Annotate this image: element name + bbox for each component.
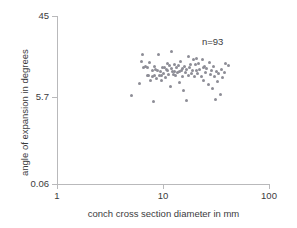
data-point: [219, 93, 222, 96]
data-point: [205, 67, 208, 70]
data-point: [179, 60, 182, 63]
data-point: [214, 98, 217, 101]
x-axis-tick-label-1: 1: [37, 191, 77, 201]
data-point: [149, 79, 152, 82]
data-point: [155, 77, 158, 80]
data-point: [193, 75, 196, 78]
data-point: [138, 82, 141, 85]
data-point: [227, 64, 230, 67]
y-axis-tick-label-0-06: 0.06: [3, 179, 49, 189]
data-point: [202, 79, 205, 82]
data-point: [204, 71, 207, 74]
data-point: [192, 58, 195, 61]
data-point: [182, 89, 185, 92]
data-point: [178, 81, 181, 84]
data-point: [213, 75, 216, 78]
data-point: [146, 66, 149, 69]
data-point: [167, 73, 170, 76]
data-point: [169, 85, 172, 88]
scatter-plot-figure: 45 5.7 0.06 1 10 100 conch cross section…: [0, 0, 297, 228]
data-point: [209, 73, 212, 76]
data-point: [195, 57, 198, 60]
y-axis-title: angle of expansion in degrees: [19, 49, 30, 176]
y-axis-tick-label-45: 45: [3, 11, 49, 21]
data-point: [184, 71, 187, 74]
data-point: [198, 68, 201, 71]
data-point: [185, 99, 188, 102]
data-point: [197, 62, 200, 65]
data-point: [221, 76, 224, 79]
data-point: [187, 55, 190, 58]
data-point: [157, 53, 160, 56]
data-point: [216, 80, 219, 83]
data-point: [166, 69, 169, 72]
data-point: [223, 71, 226, 74]
data-point: [210, 69, 213, 72]
x-axis-tick-label-100: 100: [249, 191, 289, 201]
data-point: [220, 68, 223, 71]
plot-area: [57, 16, 270, 184]
data-point: [189, 63, 192, 66]
data-point: [177, 64, 180, 67]
data-point: [174, 74, 177, 77]
data-point: [147, 74, 150, 77]
data-point: [212, 65, 215, 68]
data-point: [211, 87, 214, 90]
data-point: [160, 79, 163, 82]
data-point: [208, 61, 211, 64]
data-point: [181, 75, 184, 78]
data-point: [207, 83, 210, 86]
x-axis-tick-10: [163, 184, 164, 189]
data-point: [162, 72, 165, 75]
x-axis-title: conch cross section diameter in mm: [57, 208, 270, 219]
x-axis-tick-100: [269, 184, 270, 189]
data-point: [148, 61, 151, 64]
x-axis-tick-1: [57, 184, 58, 189]
data-point: [196, 72, 199, 75]
data-point: [170, 50, 173, 53]
data-point: [200, 75, 203, 78]
data-point: [141, 53, 144, 56]
data-point: [217, 72, 220, 75]
data-point: [201, 58, 204, 61]
data-point: [140, 60, 143, 63]
data-point: [130, 94, 133, 97]
data-point: [185, 68, 188, 71]
data-point: [152, 100, 155, 103]
data-point: [194, 63, 197, 66]
x-axis-tick-label-10: 10: [143, 191, 183, 201]
data-point: [187, 74, 190, 77]
data-point: [164, 76, 167, 79]
data-point: [191, 69, 194, 72]
